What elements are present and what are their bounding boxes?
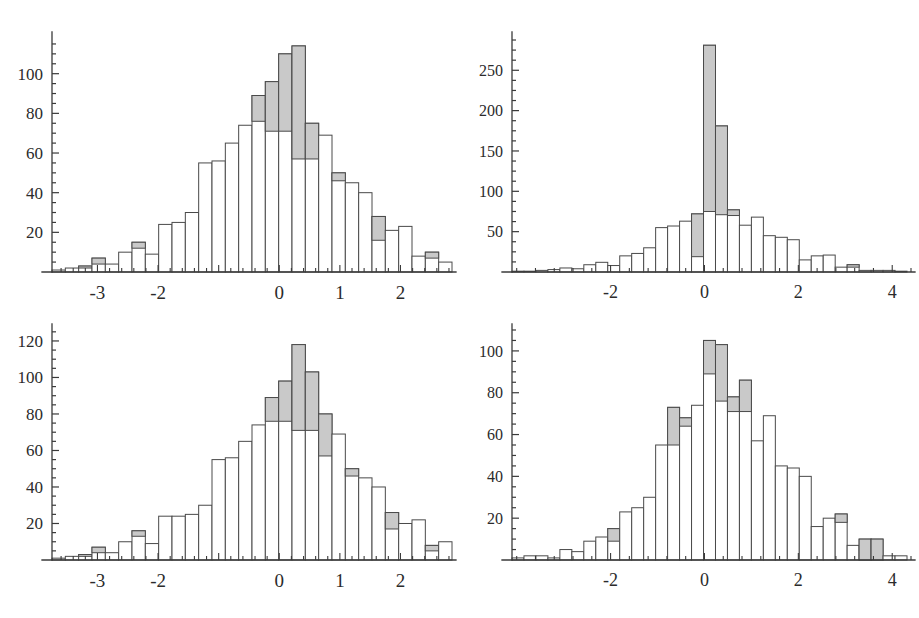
- x-tick-label: 4: [888, 282, 897, 302]
- x-tick-label: 0: [275, 282, 285, 303]
- histogram-bar: [739, 225, 751, 272]
- histogram-bar-shaded-segment: [385, 513, 398, 529]
- histogram-bar: [644, 248, 656, 272]
- histogram-bar: [811, 527, 823, 560]
- histogram-bar-shaded-segment: [871, 539, 883, 560]
- histogram-bar: [727, 210, 739, 272]
- y-tick-label: 40: [26, 184, 43, 203]
- panel-top-right: 50100150200250-2024: [460, 0, 919, 310]
- histogram-bar-shaded-segment: [608, 529, 620, 542]
- histogram-bar: [823, 518, 835, 560]
- y-axis-ticks: 50100150200250: [479, 40, 519, 262]
- y-axis-ticks: 20406080100: [18, 44, 60, 262]
- histogram-bar: [596, 537, 608, 560]
- y-tick-label: 60: [487, 426, 503, 443]
- y-tick-label: 40: [26, 478, 43, 497]
- x-tick-label: 2: [396, 282, 406, 303]
- panel-top-right-svg: 50100150200250-2024: [460, 0, 919, 310]
- histogram-bar: [332, 173, 345, 272]
- x-tick-label: -3: [90, 570, 106, 591]
- histogram-bar: [159, 224, 172, 272]
- histogram-bar-shaded-segment: [332, 173, 345, 181]
- histogram-bar: [252, 96, 265, 272]
- histogram-bar: [584, 265, 596, 272]
- y-axis-ticks: 20406080100: [479, 330, 519, 550]
- x-tick-label: 2: [396, 570, 406, 591]
- panel-bottom-right-svg: 20406080100-2024: [460, 308, 919, 618]
- histogram-bar: [185, 213, 198, 272]
- histogram-bar-shaded-segment: [680, 418, 692, 426]
- histogram-bar-shaded-segment: [92, 547, 105, 552]
- histogram-bar: [119, 252, 132, 272]
- histogram-bar: [656, 445, 668, 560]
- histogram-bar: [763, 416, 775, 560]
- histogram-bar-shaded-segment: [252, 96, 265, 122]
- histogram-bar: [359, 193, 372, 272]
- histogram-bar: [632, 253, 644, 272]
- histogram-bar-shaded-segment: [715, 345, 727, 401]
- histogram-bar: [239, 441, 252, 560]
- histogram-bar: [727, 397, 739, 560]
- histogram-bar: [145, 254, 158, 272]
- y-tick-label: 100: [479, 343, 503, 360]
- y-tick-label: 60: [26, 144, 43, 163]
- y-tick-label: 100: [479, 183, 503, 200]
- histogram-bar: [372, 487, 385, 560]
- y-tick-label: 100: [18, 368, 44, 387]
- histogram-bar: [225, 143, 238, 272]
- y-tick-label: 20: [26, 514, 43, 533]
- histogram-bar-shaded-segment: [132, 242, 145, 248]
- histogram-bar-shaded-segment: [292, 46, 305, 159]
- histogram-bar: [751, 217, 763, 272]
- histogram-bar-shaded-segment: [92, 258, 105, 264]
- histogram-bar-shaded-segment: [279, 381, 292, 421]
- histogram-bar-shaded-segment: [425, 545, 438, 550]
- histogram-bar: [620, 256, 632, 272]
- x-tick-label: 1: [335, 282, 345, 303]
- histogram-bar: [345, 183, 358, 272]
- panel-top-left: 20406080100-3-2012: [0, 0, 460, 310]
- histogram-bar-shaded-segment: [319, 414, 332, 456]
- x-tick-label: -2: [603, 282, 618, 302]
- histogram-bar: [763, 236, 775, 272]
- histogram-bar: [199, 505, 212, 560]
- histogram-bar: [412, 520, 425, 560]
- histogram-figure: 20406080100-3-2012 50100150200250-2024 2…: [0, 0, 919, 618]
- histogram-bar: [823, 255, 835, 272]
- x-tick-label: 1: [335, 570, 345, 591]
- histogram-bars: [512, 340, 907, 560]
- y-tick-label: 20: [487, 510, 503, 527]
- histogram-bar: [212, 460, 225, 560]
- histogram-bar-shaded-segment: [715, 126, 727, 215]
- histogram-bar: [560, 550, 572, 560]
- histogram-bar: [680, 418, 692, 560]
- histogram-bar: [572, 552, 584, 560]
- histogram-bar: [775, 466, 787, 560]
- x-tick-label: -2: [150, 570, 166, 591]
- histogram-bar-shaded-segment: [132, 531, 145, 536]
- histogram-bar: [239, 125, 252, 272]
- histogram-bar: [319, 135, 332, 272]
- histogram-bar-shaded-segment: [704, 340, 716, 373]
- histogram-bar-shaded-segment: [835, 514, 847, 522]
- histogram-bar: [412, 256, 425, 272]
- x-tick-label: 0: [700, 282, 709, 302]
- x-tick-label: -2: [603, 570, 618, 590]
- histogram-bar: [252, 425, 265, 560]
- panel-bottom-left: 20406080100120-3-2012: [0, 308, 460, 618]
- y-tick-label: 80: [487, 384, 503, 401]
- histogram-bar: [345, 469, 358, 560]
- histogram-bar: [656, 228, 668, 272]
- histogram-bar-shaded-segment: [305, 123, 318, 159]
- histogram-bar-shaded-segment: [79, 266, 92, 268]
- histogram-bar: [775, 237, 787, 272]
- histogram-bar: [332, 434, 345, 560]
- x-tick-label: 2: [794, 282, 803, 302]
- histogram-bar: [172, 222, 185, 272]
- histogram-bar: [668, 226, 680, 272]
- histogram-bar-shaded-segment: [739, 380, 751, 411]
- y-tick-label: 80: [26, 104, 43, 123]
- histogram-bar: [596, 262, 608, 272]
- histogram-bar: [212, 161, 225, 272]
- y-tick-label: 100: [18, 65, 44, 84]
